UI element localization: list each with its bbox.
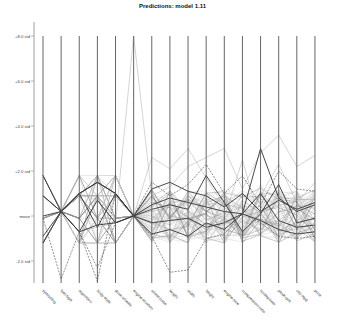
axis-label: engine-size bbox=[223, 288, 242, 307]
data-line bbox=[43, 36, 315, 223]
y-tick-label: mean bbox=[20, 214, 31, 219]
axis-label: aspiration bbox=[78, 288, 94, 304]
axis-label: drive-wheels bbox=[114, 288, 133, 307]
parallel-coordinates-plot: +8.0 std+6.0 std+4.0 std+2.0 stdmean-2.0… bbox=[0, 0, 345, 336]
y-tick-label: +2.0 std bbox=[15, 169, 31, 174]
axis-label: fuel-type bbox=[59, 288, 74, 303]
y-tick-label: -2.0 std bbox=[16, 259, 31, 264]
axis-label: peak-rpm bbox=[277, 288, 293, 304]
axis-label: horsepower bbox=[259, 288, 278, 307]
y-tick-label: +4.0 std bbox=[15, 124, 31, 129]
axis-label: wheel-base bbox=[150, 288, 169, 307]
axis-label: symboling bbox=[41, 288, 57, 304]
axis-label: height bbox=[204, 288, 216, 300]
y-tick-label: +8.0 std bbox=[15, 34, 31, 39]
axis-label: length bbox=[168, 288, 179, 299]
axis-label: city-mpg bbox=[295, 288, 309, 302]
axis-label: width bbox=[186, 288, 196, 298]
y-tick-label: +6.0 std bbox=[15, 79, 31, 84]
chart-root: Predictions: model 1.11 +8.0 std+6.0 std… bbox=[0, 0, 345, 336]
axis-label: body-style bbox=[96, 288, 113, 305]
axis-label: price bbox=[313, 288, 323, 298]
